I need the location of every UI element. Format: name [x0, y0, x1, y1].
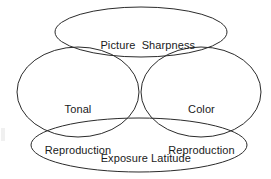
venn-diagram: Picture Sharpness Tonal Reproduction Col…: [0, 0, 271, 179]
ellipse-picture-sharpness[interactable]: [55, 7, 227, 57]
ellipse-color-reproduction[interactable]: [141, 47, 261, 137]
venn-diagram-canvas: [0, 0, 271, 179]
ellipse-exposure-latitude[interactable]: [31, 118, 247, 172]
scan-artifact: [1, 128, 5, 141]
ellipse-tonal-reproduction[interactable]: [17, 47, 139, 137]
